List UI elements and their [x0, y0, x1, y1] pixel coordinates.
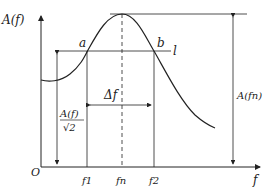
resonance-diagram: A(f) f O a b l Δf A(f) √2 A(fn) f1 fn f2 — [0, 0, 277, 196]
half-power-denominator: √2 — [63, 122, 76, 133]
line-l-label: l — [173, 44, 177, 58]
half-power-numerator: A(f) — [59, 108, 79, 119]
origin-label: O — [31, 166, 40, 179]
point-b-label: b — [157, 36, 165, 50]
y-axis-label: A(f) — [1, 13, 25, 27]
x-axis-label: f — [252, 173, 260, 187]
point-a-label: a — [79, 36, 86, 50]
x-tick-fn: fn — [115, 175, 126, 186]
bandwidth-label: Δf — [103, 88, 120, 102]
peak-amplitude-label: A(fn) — [236, 90, 262, 101]
x-tick-f2: f2 — [148, 175, 159, 186]
diagram-canvas: A(f) f O a b l Δf A(f) √2 A(fn) f1 fn f2 — [0, 0, 277, 196]
x-tick-f1: f1 — [81, 175, 92, 186]
